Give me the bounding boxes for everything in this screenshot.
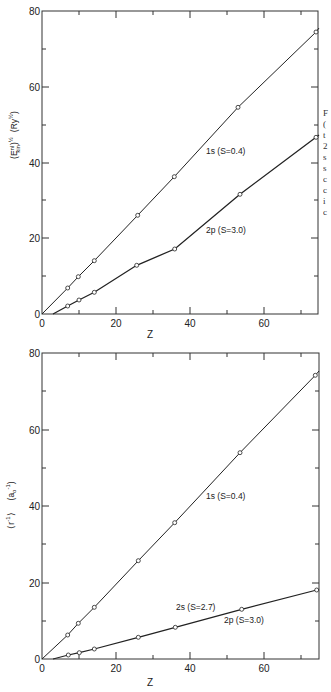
svg-text:⟨r-1⟩(ao-1): ⟨r-1⟩(ao-1) [5, 481, 17, 528]
series-1s-label: 1s (S=0.4) [206, 491, 246, 501]
top-x-tick-labels: 0 20 40 60 [39, 318, 270, 329]
caption-char: c [323, 185, 331, 196]
x-tick-label: 40 [184, 318, 196, 329]
bottom-plot-frame [42, 353, 319, 659]
bottom-x-tick-labels: 0 20 40 60 [39, 663, 270, 674]
x-tick-label: 20 [110, 318, 122, 329]
x-tick-label: 20 [110, 663, 122, 674]
caption-char: c [323, 207, 331, 218]
bottom-y-tick-labels: 0 20 40 60 80 [29, 348, 41, 665]
series-2p-line [53, 135, 319, 314]
series-1s-line [42, 28, 319, 314]
series-2s-label: 2s (S=2.7) [176, 602, 216, 612]
bottom-y-axis-label: ⟨r-1⟩(ao-1) [5, 481, 17, 528]
top-y-tick-labels: 0 20 40 60 80 [29, 6, 41, 320]
caption-char: c [323, 174, 331, 185]
caption-fragment: F ( t 2 s s c c i c [323, 108, 331, 218]
y-tick-label: 60 [29, 82, 41, 93]
y-tick-label: 0 [34, 654, 40, 665]
top-x-axis-label: Z [147, 329, 153, 340]
top-y-axis-label: (Enlkin)½(Ry½) [8, 111, 21, 159]
caption-char: F [323, 108, 331, 119]
x-tick-label: 60 [258, 318, 270, 329]
series-2p-label: 2p (S=3.0) [224, 615, 264, 625]
y-tick-label: 60 [29, 425, 41, 436]
y-tick-label: 40 [29, 158, 41, 169]
series-2p-markers [66, 135, 318, 308]
y-tick-label: 20 [29, 233, 41, 244]
caption-char: 2 [323, 141, 331, 152]
x-tick-label: 40 [184, 663, 196, 674]
y-tick-label: 40 [29, 501, 41, 512]
caption-char: ( [323, 119, 331, 130]
y-tick-label: 20 [29, 578, 41, 589]
caption-char: s [323, 152, 331, 163]
series-1s-label: 1s (S=0.4) [206, 146, 246, 156]
caption-char: i [323, 196, 331, 207]
y-tick-label: 0 [34, 309, 40, 320]
top-chart: 0 20 40 60 0 20 40 60 80 Z (Enlkin)½(Ry½… [0, 0, 331, 340]
caption-char: s [323, 163, 331, 174]
caption-char: t [323, 130, 331, 141]
y-tick-label: 80 [29, 348, 41, 359]
top-plot-frame [42, 11, 318, 314]
x-tick-label: 0 [39, 318, 45, 329]
svg-text:(Enlkin)½(Ry½): (Enlkin)½(Ry½) [8, 111, 21, 159]
series-2p-label: 2p (S=3.0) [206, 225, 246, 235]
x-tick-label: 60 [258, 663, 270, 674]
y-tick-label: 80 [29, 6, 41, 17]
x-tick-label: 0 [39, 663, 45, 674]
bottom-ticks [42, 353, 319, 659]
bottom-chart: 0 20 40 60 0 20 40 60 80 Z ⟨r-1⟩(ao-1) 1… [0, 340, 331, 692]
bottom-x-axis-label: Z [147, 677, 153, 688]
top-ticks [42, 11, 318, 314]
series-1s-line [42, 371, 319, 659]
